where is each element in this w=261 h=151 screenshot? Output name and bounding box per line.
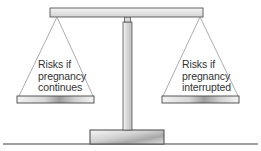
balance-scale-diagram: Risks if pregnancy continues Risks if pr… [0, 0, 261, 151]
right-label-line-3: interrupted [182, 82, 231, 94]
right-pan-label: Risks if pregnancy interrupted [182, 59, 231, 94]
right-pan [162, 96, 239, 103]
left-label-line-1: Risks if [38, 59, 86, 71]
scale-beam [50, 8, 203, 17]
right-label-line-1: Risks if [182, 59, 231, 71]
left-pan [17, 96, 94, 103]
left-label-line-3: continues [38, 82, 86, 94]
left-pan-label: Risks if pregnancy continues [38, 59, 86, 94]
pivot-nub [125, 17, 131, 22]
scale-post [123, 22, 132, 130]
scale-base [90, 130, 164, 144]
